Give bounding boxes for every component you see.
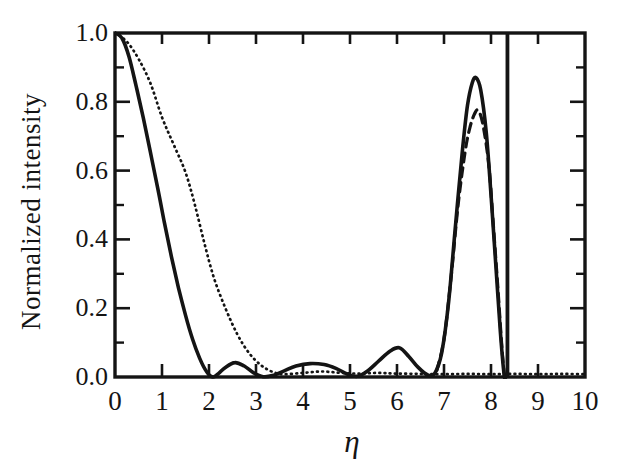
x-axis-title: η [322,424,382,460]
x-tick-label: 3 [233,388,279,415]
x-tick-label: 6 [374,388,420,415]
curves-group [115,33,585,379]
x-tick-label: 5 [327,388,373,415]
y-tick-label: 0.0 [42,364,108,390]
figure: Normalized intensity η 1.00.80.60.40.20.… [0,0,617,471]
x-tick-label: 2 [186,388,232,415]
x-tick-label: 1 [139,388,185,415]
x-tick-label: 8 [468,388,514,415]
x-tick-label: 9 [515,388,561,415]
y-tick-label: 1.0 [42,20,108,46]
x-tick-label: 10 [562,388,608,415]
dotted-curve [115,33,585,374]
dashed-curve [437,110,505,377]
y-tick-label: 0.2 [42,295,108,321]
y-tick-label: 0.8 [42,89,108,115]
y-tick-label: 0.6 [42,158,108,184]
x-tick-label: 4 [280,388,326,415]
plot-frame [115,33,585,377]
x-tick-label: 7 [421,388,467,415]
x-tick-label: 0 [92,388,138,415]
solid-curve [115,33,506,379]
y-tick-label: 0.4 [42,226,108,252]
